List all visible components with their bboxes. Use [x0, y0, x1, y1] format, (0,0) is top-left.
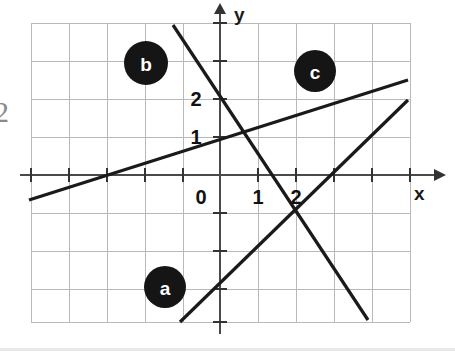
y-axis-name: y [234, 4, 245, 25]
marker-b: b [124, 41, 168, 85]
coordinate-plane-chart: 2 1 0 1 2 y x a b c 2 [0, 0, 455, 355]
marker-a: a [144, 266, 186, 308]
marker-c-label: c [310, 62, 321, 83]
marker-b-label: b [140, 54, 152, 75]
x-tick-label-2: 2 [290, 186, 301, 208]
marker-a-label: a [160, 278, 171, 299]
line-series-b [173, 25, 368, 320]
plot-lines [29, 25, 408, 322]
x-axis-arrow-icon [434, 169, 446, 181]
x-tick-label-0: 0 [195, 186, 206, 208]
x-axis-name: x [414, 183, 425, 204]
graph-figure: 2 1 0 1 2 y x a b c 2 [0, 0, 455, 355]
x-axis [20, 168, 446, 182]
scan-smudge [0, 348, 455, 351]
y-tick-label-1: 1 [190, 126, 201, 148]
y-axis-arrow-icon [214, 3, 226, 14]
x-tick-label-1: 1 [252, 186, 263, 208]
margin-page-digit: 2 [0, 95, 9, 128]
marker-c: c [294, 50, 336, 92]
y-tick-label-2: 2 [190, 88, 201, 110]
